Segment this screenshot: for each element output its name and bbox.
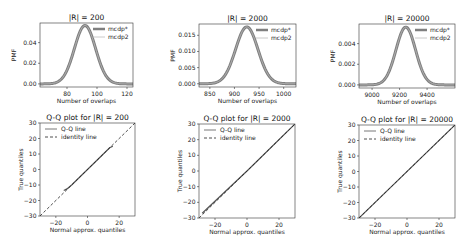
y-tick-label: 0.00	[23, 80, 37, 87]
x-axis-label: Normal approx. quantiles	[369, 228, 445, 236]
x-tick-label: 120	[121, 90, 133, 97]
subplot-title: |R| = 20000	[384, 14, 429, 23]
legend-label: Q-Q line	[380, 127, 405, 134]
x-tick-label: 9000	[364, 91, 379, 98]
y-tick-label: 0.004	[338, 40, 355, 47]
x-tick-label: 900	[229, 90, 241, 97]
x-tick-label: −20	[369, 221, 382, 228]
y-tick-label: −10	[24, 181, 37, 188]
subplot-title: |R| = 2000	[227, 14, 268, 23]
y-tick-label: 0	[192, 167, 196, 174]
x-axis-label: Normal approx. quantiles	[50, 226, 126, 234]
subplot-4: Q-Q plot for |R| = 200−30−20−100102030−2…	[17, 113, 135, 234]
y-tick-label: 20	[29, 135, 37, 142]
x-tick-label: 950	[253, 90, 265, 97]
y-tick-label: 10	[29, 150, 37, 157]
legend-label: mcdp*	[430, 26, 450, 34]
y-tick-label: 20	[348, 137, 356, 144]
legend-label: mcdp2	[430, 34, 451, 42]
y-tick-label: 30	[188, 120, 196, 127]
subplot-title: Q-Q plot for |R| = 200	[46, 113, 129, 122]
y-tick-label: −30	[24, 212, 37, 219]
x-tick-label: 20	[275, 221, 283, 228]
legend-label: mcdp*	[271, 26, 291, 34]
x-tick-label: 9400	[419, 91, 434, 98]
y-tick-label: −30	[343, 214, 356, 221]
y-tick-label: 20	[188, 136, 196, 143]
subplot-title: |R| = 200	[69, 13, 105, 22]
subplot-title: Q-Q plot for |R| = 20000	[361, 115, 453, 124]
y-tick-label: −10	[343, 183, 356, 190]
y-axis-label: True quantiles	[336, 150, 344, 193]
x-axis-label: Number of overlaps	[57, 97, 116, 105]
x-tick-label: 9200	[392, 91, 407, 98]
y-tick-label: −20	[343, 199, 356, 206]
y-tick-label: 10	[348, 152, 356, 159]
x-axis-label: Normal approx. quantiles	[209, 228, 285, 236]
y-tick-label: 0.010	[178, 47, 195, 54]
subplot-title: Q-Q plot for |R| = 2000	[203, 114, 290, 123]
x-tick-label: 100	[91, 90, 103, 97]
x-axis-label: Number of overlaps	[218, 97, 277, 105]
y-axis-label: True quantiles	[176, 150, 184, 193]
y-tick-label: 0.02	[23, 59, 37, 66]
legend-label: identity line	[220, 134, 256, 142]
legend-label: mcdp2	[108, 33, 129, 41]
x-tick-label: 20	[435, 221, 443, 228]
x-tick-label: 0	[86, 219, 90, 226]
legend-label: identity line	[61, 133, 97, 141]
x-tick-label: −20	[209, 221, 222, 228]
legend-label: Q-Q line	[61, 125, 86, 132]
subplot-5: Q-Q plot for |R| = 2000−30−20−100102030−…	[176, 114, 295, 236]
y-axis-label: PMF	[169, 49, 176, 62]
x-tick-label: 0	[245, 221, 249, 228]
legend-label: mcdp2	[271, 34, 292, 42]
y-tick-label: 30	[348, 121, 356, 128]
x-axis-label: Number of overlaps	[377, 98, 436, 106]
y-tick-label: 0.000	[178, 80, 195, 87]
figure: |R| = 2000.000.020.0480100120Number of o…	[0, 0, 469, 251]
y-tick-label: 0	[33, 166, 37, 173]
y-tick-label: 0	[352, 168, 356, 175]
subplot-1: |R| = 2000.000.020.0480100120Number of o…	[10, 13, 133, 105]
legend-label: mcdp*	[108, 25, 128, 33]
y-tick-label: −20	[183, 198, 196, 205]
y-tick-label: 0.005	[178, 64, 195, 71]
y-tick-label: 0.015	[178, 31, 195, 38]
x-tick-label: 850	[204, 90, 216, 97]
y-tick-label: 10	[188, 151, 196, 158]
y-tick-label: −10	[183, 183, 196, 190]
x-tick-label: −20	[49, 219, 62, 226]
subplot-2: |R| = 20000.0000.0050.0100.0158509009501…	[169, 14, 296, 105]
x-tick-label: 20	[115, 219, 123, 226]
y-axis-label: PMF	[10, 48, 17, 61]
y-tick-label: 30	[29, 119, 37, 126]
legend-label: identity line	[380, 135, 416, 143]
subplot-6: Q-Q plot for |R| = 20000−30−20−100102030…	[336, 115, 455, 236]
y-axis-label: PMF	[329, 49, 336, 62]
y-axis-label: True quantiles	[17, 148, 25, 191]
y-tick-label: −20	[24, 197, 37, 204]
y-tick-label: 0.000	[338, 81, 355, 88]
legend-label: Q-Q line	[220, 126, 245, 133]
x-tick-label: 80	[63, 90, 71, 97]
y-tick-label: 0.002	[338, 60, 355, 67]
y-tick-label: 0.04	[23, 39, 37, 46]
subplot-3: |R| = 200000.0000.0020.004900092009400Nu…	[329, 14, 455, 106]
x-tick-label: 1000	[276, 90, 291, 97]
x-tick-label: 0	[405, 221, 409, 228]
y-tick-label: −30	[183, 214, 196, 221]
